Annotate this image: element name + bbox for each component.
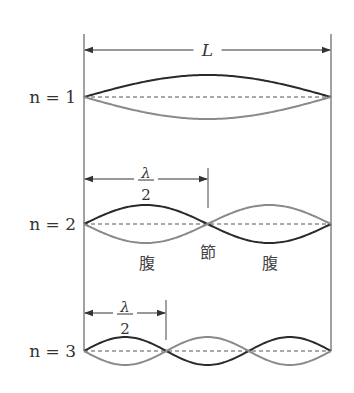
n2-denominator: 2 <box>141 186 151 204</box>
n2-lambda-symbol: λ <box>140 164 151 182</box>
mode-n1-wave-phase-b <box>84 97 331 119</box>
standing-wave-diagram: L λ 2 λ 2 n = 1 n = 2 n = 3 節 腹 <box>0 0 354 393</box>
antinode-label-left: 腹 <box>139 254 155 273</box>
mode-n3: n = 3 <box>29 337 331 365</box>
n3-denominator: 2 <box>120 320 130 338</box>
mode-n1: n = 1 <box>29 75 331 119</box>
n3-lambda-symbol: λ <box>119 298 130 316</box>
n2-half-wavelength-dimension: λ 2 <box>85 164 208 208</box>
node-label: 節 <box>200 243 216 262</box>
mode-n2-label: n = 2 <box>29 214 76 234</box>
length-dimension: L <box>85 40 330 60</box>
mode-n1-label: n = 1 <box>29 87 76 107</box>
mode-n3-label: n = 3 <box>29 341 76 361</box>
length-label: L <box>201 40 213 60</box>
antinode-label-right: 腹 <box>262 254 278 273</box>
mode-n2: n = 2 <box>29 205 331 243</box>
n3-half-wavelength-dimension: λ 2 <box>85 298 166 340</box>
mode-n1-wave-phase-a <box>84 75 331 97</box>
